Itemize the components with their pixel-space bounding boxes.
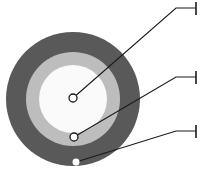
callout-marker-1[interactable] <box>69 94 77 102</box>
concentric-circle-diagram <box>0 0 208 181</box>
callout-marker-3[interactable] <box>73 159 80 166</box>
callout-marker-2[interactable] <box>70 133 78 141</box>
diagram-canvas <box>0 0 208 181</box>
